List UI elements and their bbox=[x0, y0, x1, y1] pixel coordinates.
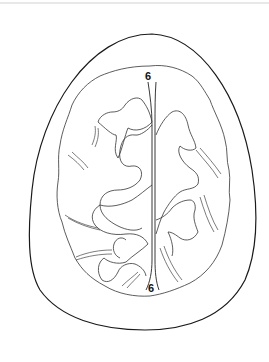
vessel-right-1 bbox=[196, 148, 221, 178]
label-bottom-6: 6 bbox=[148, 282, 154, 294]
cortex-outline bbox=[57, 65, 230, 296]
vessel-left-4 bbox=[92, 126, 98, 147]
vessel-right-2 bbox=[200, 195, 218, 232]
vessel-left-1 bbox=[68, 152, 88, 170]
gyrus-right-frontal bbox=[156, 111, 199, 234]
gyrus-left-inner bbox=[113, 238, 126, 258]
vessel-left-5 bbox=[122, 272, 140, 288]
gyrus-left-upper bbox=[100, 125, 152, 230]
gyrus-left-lower bbox=[98, 244, 148, 282]
gyrus-left-frontal bbox=[98, 98, 152, 158]
label-top-6: 6 bbox=[145, 70, 151, 82]
vessel-right-3 bbox=[160, 246, 182, 282]
brain-diagram: 6 6 bbox=[0, 0, 269, 362]
gyrus-right-middle bbox=[156, 200, 198, 240]
gyrus-left-middle bbox=[92, 185, 152, 244]
midline-fissure-right bbox=[155, 82, 159, 290]
vessel-left-2 bbox=[65, 215, 100, 230]
skull-outline bbox=[29, 34, 256, 330]
gyrus-right-lower bbox=[168, 232, 173, 256]
vessel-left-3 bbox=[76, 250, 112, 260]
